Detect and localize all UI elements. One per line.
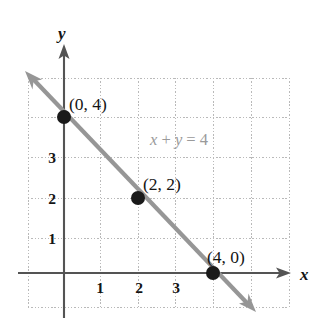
y-tick-label-2: 2	[48, 190, 56, 207]
x-tick-label-2: 2	[135, 279, 143, 296]
coordinate-plane-svg: 3 2 1 1 2 3 y x x + y = 4 (0, 4) (2, 2) …	[0, 0, 322, 321]
y-tick-label-1: 1	[48, 230, 56, 247]
point-label-4-0: (4, 0)	[207, 247, 245, 267]
y-tick-labels: 3 2 1	[48, 149, 56, 247]
y-tick-label-3: 3	[48, 149, 56, 166]
point-label-2-2: (2, 2)	[143, 174, 181, 194]
x-tick-label-1: 1	[96, 279, 104, 296]
point-marker-4-0	[206, 266, 220, 280]
x-tick-label-3: 3	[172, 279, 180, 296]
equation-annotation: x + y = 4	[149, 130, 208, 149]
x-tick-labels: 1 2 3	[96, 279, 180, 296]
equation-value: 4	[200, 130, 208, 149]
x-axis-label: x	[299, 265, 309, 284]
equation-operator-plus: +	[157, 130, 175, 149]
equation-operator-equals: =	[182, 130, 200, 149]
plotted-points: (0, 4) (2, 2) (4, 0)	[57, 94, 245, 280]
y-axis-label: y	[56, 24, 66, 43]
point-label-0-4: (0, 4)	[69, 94, 107, 114]
graph-figure: 3 2 1 1 2 3 y x x + y = 4 (0, 4) (2, 2) …	[0, 0, 322, 321]
